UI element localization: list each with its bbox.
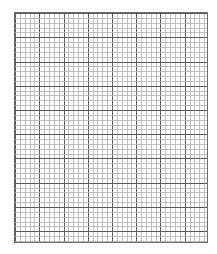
graph-paper-sheet: [0, 0, 217, 254]
grid-area: [14, 12, 208, 243]
grid-lines: [15, 13, 208, 243]
footer-text: [14, 244, 208, 252]
